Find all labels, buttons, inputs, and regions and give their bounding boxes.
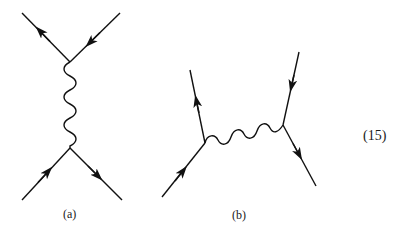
arrow-icon bbox=[175, 171, 183, 181]
equation-number: (15) bbox=[363, 128, 386, 144]
diagram-b bbox=[162, 52, 316, 197]
arrow-icon bbox=[40, 31, 50, 42]
feynman-diagrams bbox=[0, 0, 401, 235]
fermion-line-b-bottom-left bbox=[162, 143, 205, 197]
arrow-icon bbox=[197, 101, 200, 113]
arrow-icon bbox=[293, 144, 299, 155]
diagram-a-label: (a) bbox=[63, 207, 76, 222]
fermion-line-b-top-right bbox=[283, 52, 299, 125]
arrow-icon bbox=[38, 172, 48, 183]
photon-propagator-a bbox=[64, 62, 76, 148]
arrow-icon bbox=[88, 166, 98, 176]
photon-propagator-b bbox=[205, 124, 283, 144]
arrow-icon bbox=[90, 33, 100, 43]
arrow-icon bbox=[292, 75, 295, 86]
diagram-b-label: (b) bbox=[232, 208, 246, 223]
diagram-a bbox=[22, 13, 122, 200]
fermion-line-b-bottom-right bbox=[283, 125, 316, 186]
